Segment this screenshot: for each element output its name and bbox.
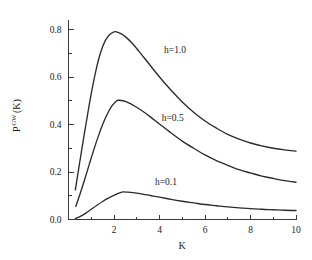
chart-series-group	[75, 32, 296, 219]
x-axis-title: K	[178, 240, 186, 251]
line-chart: 0.00.20.40.60.8 246810 h=1.0h=0.5h=0.1 K…	[0, 0, 312, 260]
y-axis-title-argument: (K)	[11, 99, 23, 113]
x-axis-ticks: 246810	[91, 215, 301, 235]
x-tick-label: 8	[248, 225, 253, 235]
x-tick-label: 6	[203, 225, 208, 235]
curve-annotation: h=0.5	[162, 113, 184, 123]
series-line-h01	[75, 192, 296, 219]
y-axis-title-superscript: GW	[10, 114, 17, 126]
curve-annotation: h=1.0	[164, 45, 186, 55]
y-tick-label: 0.0	[50, 215, 62, 225]
y-tick-label: 0.4	[50, 120, 62, 130]
chart-figure: 0.00.20.40.60.8 246810 h=1.0h=0.5h=0.1 K…	[0, 0, 312, 260]
x-tick-label: 2	[112, 225, 117, 235]
y-axis-title-base: P	[11, 126, 22, 132]
series-line-h05	[76, 100, 296, 206]
x-tick-label: 4	[157, 225, 162, 235]
y-axis-title: P GW (K)	[10, 99, 24, 132]
x-tick-label: 10	[291, 225, 301, 235]
y-tick-label: 0.2	[50, 167, 62, 177]
y-tick-label: 0.6	[50, 72, 62, 82]
chart-annotations: h=1.0h=0.5h=0.1	[155, 45, 186, 187]
curve-annotation: h=0.1	[155, 177, 177, 187]
y-tick-label: 0.8	[50, 25, 62, 35]
y-axis-ticks: 0.00.20.40.60.8	[50, 25, 74, 225]
